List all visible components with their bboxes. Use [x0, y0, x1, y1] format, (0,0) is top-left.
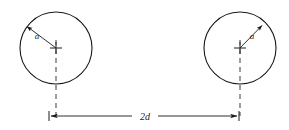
left-circle-group: a — [20, 12, 92, 116]
left-radius-arrow — [27, 27, 56, 49]
dimension-label: 2d — [140, 111, 151, 122]
right-radius-label: a — [250, 31, 255, 41]
figure-canvas: a a 2d — [0, 0, 289, 130]
right-circle-group: a — [204, 12, 276, 116]
geometry-figure: a a 2d — [0, 0, 289, 130]
dimension-line-group: 2d — [49, 111, 239, 122]
left-radius-label: a — [35, 31, 40, 41]
